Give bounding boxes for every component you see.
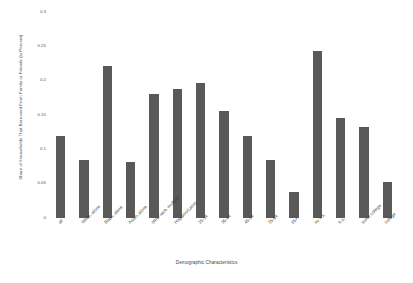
bar-slot [313,12,322,218]
bar[interactable] [313,51,322,218]
bar-slot [383,12,392,218]
bar-slot [289,12,298,218]
x-tick-label: 65+ [291,217,299,225]
x-tick-label: all [58,219,64,225]
x-axis-title: Demographic Characteristics [0,261,413,266]
bar[interactable] [359,127,368,218]
y-axis-tick-labels: 00.050.10.150.20.250.3 [26,0,48,283]
bar[interactable] [103,66,112,218]
bar-slot [196,12,205,218]
bar[interactable] [79,160,88,218]
bar-slot [359,12,368,218]
bar-slot [266,12,275,218]
y-tick-label: 0 [44,216,46,220]
bar[interactable] [243,136,252,218]
y-tick-label: 0.05 [37,181,46,185]
bar[interactable] [196,83,205,218]
bar-slot [103,12,112,218]
y-tick-label: 0.15 [37,113,46,117]
y-tick-label: 0.25 [37,44,46,48]
bar[interactable] [56,136,65,218]
bar-slot [126,12,135,218]
y-tick-label: 0.1 [40,147,46,151]
bar[interactable] [219,111,228,218]
bar-slot [336,12,345,218]
bar[interactable] [149,94,158,218]
bar-slot [219,12,228,218]
x-tick-label: h.s. [338,217,346,225]
bar[interactable] [336,118,345,218]
bar-slot [243,12,252,218]
bar[interactable] [266,160,275,218]
bar[interactable] [289,192,298,218]
bar-slot [56,12,65,218]
y-axis-title-text: Share of Households That Borrowed From F… [19,35,23,180]
bar-slot [149,12,158,218]
bar-chart-figure: Share of Households That Borrowed From F… [0,0,413,283]
y-tick-label: 0.2 [40,78,46,82]
plot-area [49,12,399,218]
y-tick-label: 0.3 [40,10,46,14]
bar[interactable] [126,162,135,218]
bar-slot [173,12,182,218]
x-axis-tick-labels: allWhite, aloneBlack, aloneAsian, aloneo… [49,219,399,265]
bar-slot [79,12,88,218]
